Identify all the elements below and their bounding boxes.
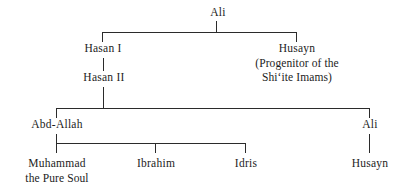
node-ibrahim: Ibrahim	[137, 157, 175, 171]
node-label: Hasan II	[83, 71, 124, 83]
node-label: Husayn	[279, 42, 316, 54]
connector-gen1-bar	[102, 32, 297, 33]
connector-hasan-i-to-hasan-ii	[103, 58, 104, 71]
node-label: Muhammad	[28, 157, 86, 169]
node-label: Ali	[210, 6, 225, 18]
connector-ibrahim-drop	[155, 143, 156, 153]
connector-hasan-ii-drop	[103, 87, 104, 109]
node-hasan-i: Hasan I	[84, 42, 121, 56]
node-muhammad-pure-soul: Muhammad the Pure Soul	[25, 157, 88, 185]
node-label: Ibrahim	[137, 157, 175, 169]
connector-abd-allah-drop	[56, 108, 57, 118]
node-label: Hasan I	[84, 42, 121, 54]
node-ali-root: Ali	[210, 6, 225, 20]
connector-husayn-drop	[296, 32, 297, 42]
node-husayn-right: Husayn	[352, 157, 389, 171]
connector-ali-right-to-husayn	[369, 134, 370, 153]
node-husayn-progenitor: Husayn (Progenitor of the Shi‘ite Imams)	[255, 42, 339, 84]
node-abd-allah: Abd-Allah	[31, 118, 82, 132]
node-hasan-ii: Hasan II	[83, 71, 124, 85]
node-idris: Idris	[235, 157, 257, 171]
connector-hasan-i-drop	[102, 32, 103, 42]
node-label: Idris	[235, 157, 257, 169]
node-label: Husayn	[352, 157, 389, 169]
node-label: Ali	[362, 118, 377, 130]
node-note-line-2: Shi‘ite Imams)	[255, 70, 339, 84]
connector-gen4-bar	[56, 143, 245, 144]
connector-muhammad-drop	[56, 143, 57, 153]
node-note-line-1: (Progenitor of the	[255, 56, 339, 70]
genealogy-diagram: Ali Hasan I Husayn (Progenitor of the Sh…	[0, 0, 414, 190]
node-label: Abd-Allah	[31, 118, 82, 130]
node-ali-right: Ali	[362, 118, 377, 132]
connector-ali-right-drop	[369, 108, 370, 118]
node-label-line-2: the Pure Soul	[25, 171, 88, 185]
connector-idris-drop	[245, 143, 246, 153]
connector-gen3-bar	[56, 108, 370, 109]
